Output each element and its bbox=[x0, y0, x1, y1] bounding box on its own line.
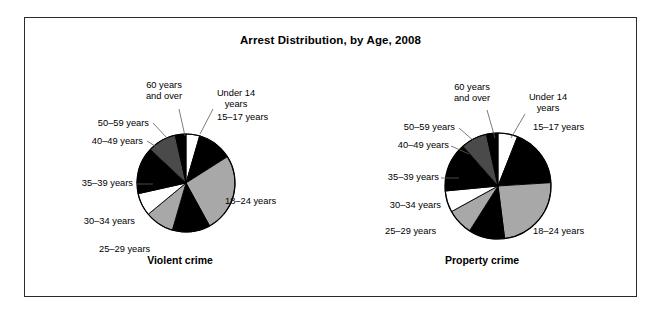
chart-panel-property-crime: 60 years and over Under 14 years 50–59 y… bbox=[329, 18, 635, 298]
label-under-14-left: Under 14 years bbox=[203, 88, 269, 111]
label-18-24-right: 18–24 years bbox=[533, 226, 584, 237]
caption-property-crime: Property crime bbox=[329, 254, 635, 266]
chart-panel-violent-crime: 60 years and over Under 14 years 50–59 y… bbox=[27, 18, 333, 298]
label-30-34-right: 30–34 years bbox=[335, 200, 441, 211]
label-60-and-over-right: 60 years and over bbox=[435, 82, 509, 105]
label-30-34-left: 30–34 years bbox=[29, 216, 135, 227]
label-40-49-right: 40–49 years bbox=[343, 140, 449, 151]
label-60-and-over-left: 60 years and over bbox=[127, 80, 201, 103]
label-18-24-left: 18–24 years bbox=[225, 196, 276, 207]
label-40-49-left: 40–49 years bbox=[37, 136, 143, 147]
label-50-59-right: 50–59 years bbox=[355, 122, 455, 133]
pie-wrap-property-crime: 60 years and over Under 14 years 50–59 y… bbox=[329, 18, 635, 268]
pie-wrap-violent-crime: 60 years and over Under 14 years 50–59 y… bbox=[27, 18, 333, 268]
label-25-29-right: 25–29 years bbox=[385, 226, 436, 237]
label-35-39-right: 35–39 years bbox=[335, 172, 439, 183]
pie-slices-violent-crime bbox=[137, 134, 235, 232]
caption-violent-crime: Violent crime bbox=[27, 254, 333, 266]
label-35-39-left: 35–39 years bbox=[29, 178, 133, 189]
chart-frame: Arrest Distribution, by Age, 2008 60 yea… bbox=[24, 17, 637, 297]
pie-slices-property-crime bbox=[445, 133, 551, 239]
label-50-59-left: 50–59 years bbox=[49, 118, 149, 129]
label-15-17-left: 15–17 years bbox=[217, 112, 268, 123]
label-under-14-right: Under 14 years bbox=[515, 92, 581, 115]
label-15-17-right: 15–17 years bbox=[533, 122, 584, 133]
